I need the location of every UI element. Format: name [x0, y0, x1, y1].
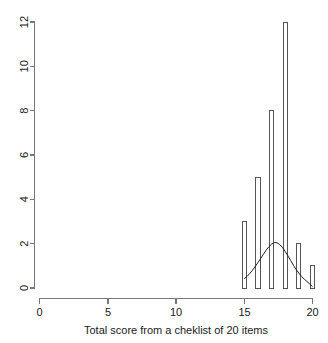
histogram-bars — [242, 22, 314, 288]
y-tick-label-12: 12 — [18, 16, 30, 28]
density-curve — [244, 243, 312, 287]
x-tick-label-15: 15 — [238, 306, 250, 318]
y-tick-label-10: 10 — [18, 60, 30, 72]
x-tick-label-5: 5 — [105, 306, 111, 318]
x-tick-label-20: 20 — [306, 306, 318, 318]
histogram-bar — [283, 22, 287, 288]
histogram-screenshot: 0 2 4 6 8 10 12 0 5 10 15 20 Total score — [0, 0, 328, 343]
y-axis-tick-labels: 0 2 4 6 8 10 12 — [18, 16, 30, 291]
y-tick-label-4: 4 — [18, 196, 30, 202]
histogram-bar — [256, 177, 260, 288]
y-tick-label-6: 6 — [18, 152, 30, 158]
y-tick-label-0: 0 — [18, 285, 30, 291]
x-tick-label-0: 0 — [36, 306, 42, 318]
x-axis-ticks — [40, 299, 313, 304]
x-axis-title: Total score from a cheklist of 20 items — [84, 324, 269, 336]
histogram-bar — [297, 244, 301, 288]
histogram-bar — [269, 111, 273, 288]
x-tick-label-10: 10 — [170, 306, 182, 318]
y-tick-label-2: 2 — [18, 241, 30, 247]
y-axis-ticks — [30, 22, 35, 288]
histogram-chart: 0 2 4 6 8 10 12 0 5 10 15 20 Total score — [0, 0, 328, 343]
x-axis-tick-labels: 0 5 10 15 20 — [36, 306, 318, 318]
y-tick-label-8: 8 — [18, 108, 30, 114]
